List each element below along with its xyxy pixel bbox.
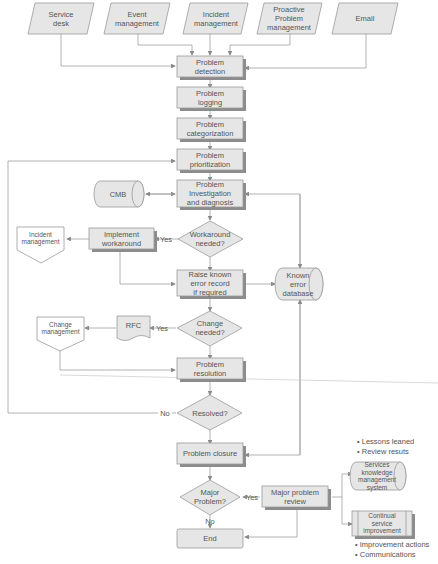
note-skms-bullets: • Lessons leaned • Review resuts: [357, 437, 414, 456]
input-service-desk: Service desk: [30, 3, 92, 34]
edge-label-yes-change: Yes: [154, 323, 170, 333]
step-major-problem-review: Major problem review: [262, 486, 328, 507]
step-problem-detection: Problem detection: [177, 56, 243, 77]
step-raise-known-error: Raise known error record if required: [177, 270, 243, 296]
step-problem-resolution: Problem resolution: [177, 358, 243, 379]
input-event-management: Event management: [106, 3, 168, 34]
edge-label-yes-major: Yes: [244, 492, 260, 502]
edge-label-yes-workaround: Yes: [158, 234, 174, 244]
edge-label-no-resolved: No: [158, 408, 172, 418]
step-end: End: [177, 529, 243, 548]
step-implement-workaround: Implement workaround: [89, 228, 154, 249]
store-cmb: CMB: [96, 181, 140, 207]
step-problem-investigation: Problem Investigation and diagnosis: [177, 180, 243, 207]
step-problem-closure: Problem closure: [177, 443, 243, 464]
external-change-management: Change management: [37, 318, 84, 338]
store-csi: Continual service improvement: [358, 511, 406, 536]
edge-label-no-major: No: [203, 516, 217, 526]
step-problem-categorization: Problem categorization: [177, 118, 243, 139]
input-proactive-problem-management: Proactive Problem management: [258, 3, 320, 34]
store-known-error-database: Known error database: [278, 268, 318, 300]
step-problem-logging: Problem logging: [177, 87, 243, 108]
problem-management-flowchart: Service desk Event management Incident m…: [0, 0, 438, 564]
decision-major-problem: Major Problem?: [180, 484, 240, 510]
input-email: Email: [334, 3, 396, 34]
step-rfc: RFC: [117, 316, 150, 334]
note-csi-bullets: • Improvement actions • Communications: [355, 540, 429, 559]
external-incident-management: Incident management: [17, 228, 64, 248]
input-incident-management: Incident management: [185, 3, 247, 34]
store-skms: Services knowledge management system: [352, 462, 402, 490]
decision-change-needed: Change needed?: [180, 315, 240, 341]
decision-resolved: Resolved?: [180, 400, 240, 426]
decision-workaround-needed: Workaround needed?: [180, 226, 240, 252]
step-problem-prioritization: Problem prioritization: [177, 149, 243, 170]
